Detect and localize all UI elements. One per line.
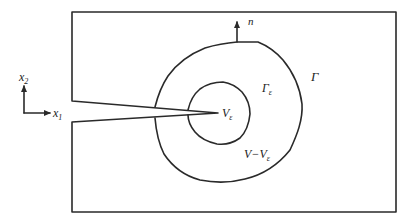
annular-region-label: V−Vε xyxy=(244,147,271,163)
inner-contour-gamma-epsilon xyxy=(188,82,250,144)
cracked-body-diagram: x2 x1 n Γ Γε Vε V−Vε xyxy=(0,0,414,224)
outer-contour-label: Γ xyxy=(310,69,319,84)
inner-contour-label: Γε xyxy=(261,81,273,97)
axis-x1-label: x1 xyxy=(52,106,62,122)
diagram-canvas: x2 x1 n Γ Γε Vε V−Vε xyxy=(0,0,414,224)
axis-x2-label: x2 xyxy=(18,70,28,86)
normal-label: n xyxy=(248,15,254,27)
inner-region-label: Vε xyxy=(222,106,233,122)
